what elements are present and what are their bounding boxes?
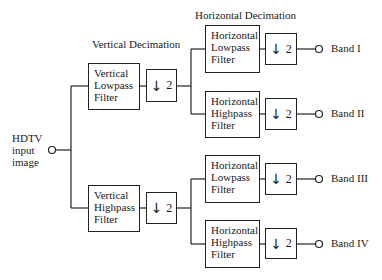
decimation-factor: 2 xyxy=(166,201,172,216)
filter-label-line: Lowpass xyxy=(211,171,259,183)
decimation-factor: 2 xyxy=(286,42,292,57)
down-arrow-icon: ↓ xyxy=(151,200,163,216)
horizontal-decimation-heading: Horizontal Decimation xyxy=(195,9,296,21)
filter-label-line: Highpass xyxy=(211,236,259,248)
filter-label-line: Highpass xyxy=(94,201,139,213)
horizontal-decimator-4: ↓ 2 xyxy=(265,228,297,259)
decimation-factor: 2 xyxy=(286,172,292,187)
filter-label-line: Horizontal xyxy=(211,29,259,41)
band-4-label: Band IV xyxy=(331,237,369,249)
filter-label-line: Lowpass xyxy=(94,79,139,91)
vertical-decimator-low: ↓ 2 xyxy=(146,69,177,102)
vertical-highpass-filter: Vertical Highpass Filter xyxy=(88,185,140,232)
filter-label-line: Filter xyxy=(94,213,139,225)
band-1-label: Band I xyxy=(331,42,361,54)
vertical-lowpass-filter: Vertical Lowpass Filter xyxy=(88,63,140,110)
filter-label-line: Filter xyxy=(94,91,139,103)
vertical-decimation-heading: Vertical Decimation xyxy=(92,38,180,50)
filter-label-line: Horizontal xyxy=(211,95,259,107)
decimation-factor: 2 xyxy=(166,78,172,93)
horizontal-decimator-1: ↓ 2 xyxy=(265,33,297,65)
filter-label-line: Horizontal xyxy=(211,224,259,236)
band-2-label: Band II xyxy=(331,107,364,119)
input-label-line: HDTV xyxy=(12,132,43,144)
filter-label-line: Horizontal xyxy=(211,159,259,171)
filter-label-line: Filter xyxy=(211,119,259,131)
decimation-factor: 2 xyxy=(286,107,292,122)
connection-lines xyxy=(0,0,382,280)
horizontal-lowpass-filter-2: Horizontal Lowpass Filter xyxy=(205,155,260,203)
input-label-line: image xyxy=(12,156,43,168)
filter-label-line: Vertical xyxy=(94,67,139,79)
filter-label-line: Filter xyxy=(211,183,259,195)
filter-label-line: Vertical xyxy=(94,189,139,201)
filter-label-line: Lowpass xyxy=(211,41,259,53)
horizontal-decimator-3: ↓ 2 xyxy=(265,163,297,195)
filter-label-line: Highpass xyxy=(211,107,259,119)
decimation-factor: 2 xyxy=(286,236,292,251)
down-arrow-icon: ↓ xyxy=(270,106,282,122)
input-label: HDTV input image xyxy=(12,132,43,168)
horizontal-decimator-2: ↓ 2 xyxy=(265,98,297,130)
filter-label-line: Filter xyxy=(211,53,259,65)
down-arrow-icon: ↓ xyxy=(270,41,282,57)
band-3-label: Band III xyxy=(331,172,368,184)
input-label-line: input xyxy=(12,144,43,156)
down-arrow-icon: ↓ xyxy=(151,78,163,94)
vertical-decimator-high: ↓ 2 xyxy=(146,192,177,224)
down-arrow-icon: ↓ xyxy=(270,171,282,187)
filter-label-line: Filter xyxy=(211,248,259,260)
horizontal-highpass-filter-1: Horizontal Highpass Filter xyxy=(205,91,260,138)
horizontal-highpass-filter-2: Horizontal Highpass Filter xyxy=(205,220,260,268)
down-arrow-icon: ↓ xyxy=(270,236,282,252)
horizontal-lowpass-filter-1: Horizontal Lowpass Filter xyxy=(205,25,260,73)
